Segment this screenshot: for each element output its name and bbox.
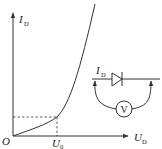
voltmeter-label: V — [121, 104, 129, 115]
threshold-label: U 0 — [52, 137, 63, 149]
diode-symbol — [112, 72, 122, 86]
svg-text:D: D — [142, 138, 147, 145]
circuit-current-label: I D — [95, 64, 106, 78]
measurement-circuit: I D V — [92, 64, 160, 117]
right-lead — [132, 81, 151, 109]
origin-label: O — [2, 135, 10, 147]
svg-text:0: 0 — [60, 143, 63, 149]
diode-figure: I D U D O U 0 I D V — [0, 0, 162, 149]
svg-text:D: D — [101, 71, 106, 78]
x-axis-label: U D — [134, 131, 147, 145]
y-axis-label: I D — [18, 13, 29, 27]
svg-text:D: D — [24, 20, 29, 27]
